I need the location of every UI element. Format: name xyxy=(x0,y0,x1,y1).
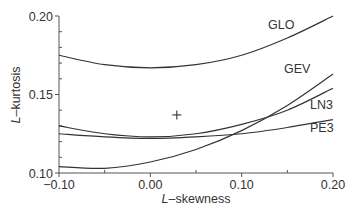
label-pe3: PE3 xyxy=(310,121,334,135)
lmoment-ratio-diagram: 0.100.150.20 −0.100.000.100.20 GLOGEVLN3… xyxy=(0,0,354,216)
curve-labels: GLOGEVLN3PE3 xyxy=(268,18,334,135)
plot-frame: 0.100.150.20 −0.100.000.100.20 xyxy=(29,10,346,193)
y-tick-label: 0.15 xyxy=(29,88,53,102)
distribution-curves xyxy=(59,16,333,168)
data-points xyxy=(172,110,181,119)
curve-pe3 xyxy=(59,120,333,139)
y-axis-title: L–kurtosis xyxy=(9,67,23,124)
plus-marker xyxy=(172,110,181,119)
x-tick-label: 0.10 xyxy=(229,178,253,192)
x-tick-label: 0.00 xyxy=(138,178,162,192)
x-tick-label: 0.20 xyxy=(321,178,345,192)
label-glo: GLO xyxy=(268,18,295,32)
label-ln3: LN3 xyxy=(310,98,333,112)
label-gev: GEV xyxy=(284,62,311,76)
x-axis-title: L–skewness xyxy=(162,192,231,206)
curve-ln3 xyxy=(59,88,333,137)
x-tick-label: −0.10 xyxy=(43,178,75,192)
y-ticks: 0.100.150.20 xyxy=(29,10,62,181)
curve-gev xyxy=(59,74,333,168)
y-tick-label: 0.20 xyxy=(29,10,53,24)
